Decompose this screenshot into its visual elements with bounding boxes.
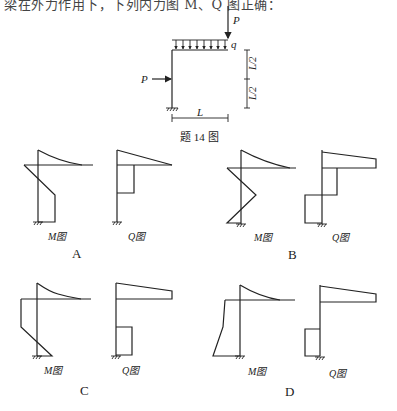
option-d-q-label: Q图 [329, 368, 348, 379]
option-c-moment-diagram [21, 283, 91, 359]
fixed-support-icon [317, 224, 327, 227]
option-a-shear-diagram [112, 150, 172, 225]
side-p-label: P [140, 73, 148, 85]
option-c-m-label: M图 [43, 365, 64, 376]
lower-half-label: L/2 [247, 87, 258, 101]
top-p-label: P [232, 14, 240, 26]
span-label: L [196, 106, 203, 118]
problem-frame-figure: q P P L/2 L/2 L 题 14 图 [140, 6, 258, 143]
option-c: M图 Q图 C [21, 283, 172, 398]
q-label: q [231, 38, 237, 50]
option-b-shear-diagram [305, 150, 376, 227]
fixed-support-icon [111, 356, 121, 359]
fixed-support-icon [315, 357, 325, 360]
option-a-m-label: M图 [47, 231, 68, 242]
diagram-canvas: q P P L/2 L/2 L 题 14 图 [0, 0, 397, 411]
option-d-letter[interactable]: D [285, 384, 294, 399]
option-c-q-label: Q图 [122, 365, 141, 376]
fixed-support-icon [236, 224, 246, 227]
option-b-moment-diagram [227, 150, 296, 227]
fixed-support-icon [33, 222, 43, 225]
option-d-moment-diagram [213, 285, 295, 359]
option-b-m-label: M图 [253, 232, 274, 243]
option-a-letter[interactable]: A [72, 246, 82, 261]
option-d: M图 Q图 D [213, 285, 376, 399]
option-a: M图 Q图 A [24, 150, 172, 261]
option-a-moment-diagram [24, 150, 93, 225]
option-d-m-label: M图 [247, 366, 268, 377]
option-c-letter[interactable]: C [80, 383, 89, 398]
option-b-letter[interactable]: B [288, 247, 297, 262]
option-a-q-label: Q图 [128, 231, 147, 242]
option-b: M图 Q图 B [227, 150, 376, 262]
fixed-support-icon [166, 108, 178, 111]
upper-half-label: L/2 [247, 57, 258, 71]
option-b-q-label: Q图 [332, 232, 351, 243]
option-c-shear-diagram [111, 283, 172, 359]
fixed-support-icon [112, 222, 122, 225]
distributed-load-q [172, 40, 228, 49]
figure-caption: 题 14 图 [180, 131, 219, 143]
option-d-shear-diagram [305, 285, 376, 360]
